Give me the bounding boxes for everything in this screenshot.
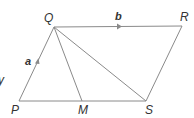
vector-label-a: a xyxy=(25,55,31,67)
vector-label-b: b xyxy=(115,10,122,22)
arrow-b-icon xyxy=(117,24,122,30)
point-label-R: R xyxy=(180,10,189,24)
partial-text: y xyxy=(0,73,5,87)
point-label-Q: Q xyxy=(44,11,53,25)
segment-RS xyxy=(146,26,182,101)
point-label-S: S xyxy=(145,103,153,117)
point-label-M: M xyxy=(78,103,88,117)
point-label-P: P xyxy=(11,103,19,117)
parallelogram-diagram: Q R P M S a b y xyxy=(0,0,194,118)
